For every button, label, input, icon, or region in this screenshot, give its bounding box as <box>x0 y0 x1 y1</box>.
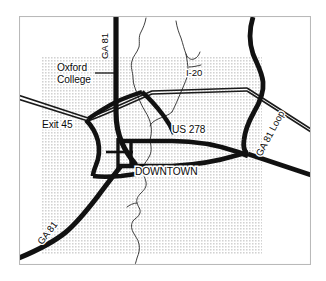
svg-text:DOWNTOWN: DOWNTOWN <box>135 166 197 177</box>
label-ga81-north: GA 81 <box>99 33 110 59</box>
svg-text:Exit 45: Exit 45 <box>42 119 73 130</box>
label-i20: I-20 <box>186 67 202 78</box>
svg-text:College: College <box>57 74 91 85</box>
map-canvas: GA 81 Oxford College I-20 Exit 45 US 278… <box>0 0 326 281</box>
label-us278: US 278 <box>172 124 206 135</box>
svg-text:US 278: US 278 <box>172 124 206 135</box>
svg-text:Oxford: Oxford <box>57 62 87 73</box>
map-figure: GA 81 Oxford College I-20 Exit 45 US 278… <box>0 0 326 281</box>
label-downtown: DOWNTOWN <box>135 166 197 177</box>
svg-text:I-20: I-20 <box>186 67 202 78</box>
svg-text:GA 81: GA 81 <box>99 33 110 59</box>
label-exit-45: Exit 45 <box>42 119 73 130</box>
label-oxford-college: Oxford College <box>57 62 91 85</box>
